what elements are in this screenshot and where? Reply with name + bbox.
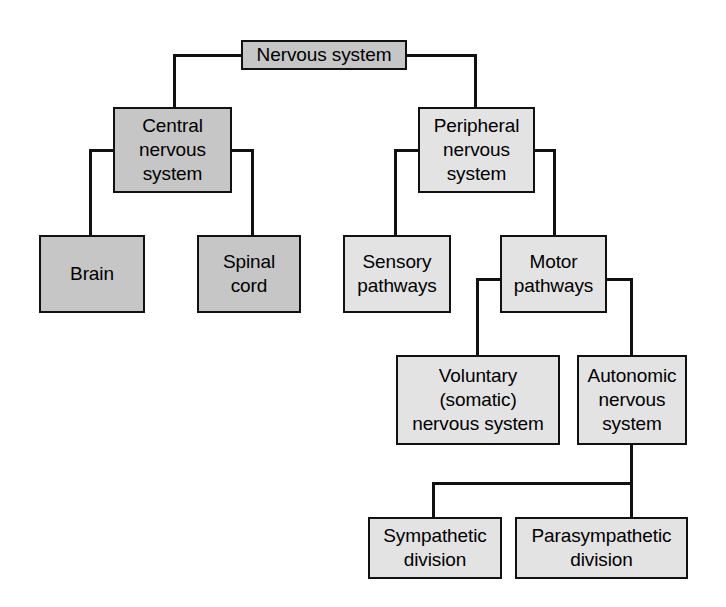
- connector-root-left-drop: [173, 54, 176, 108]
- node-sympathetic-division-line-1: Sympathetic: [383, 524, 486, 548]
- connector-autonomic-bus: [432, 482, 633, 485]
- connector-parasympathetic-drop: [630, 482, 633, 518]
- node-motor-pathways-line-2: pathways: [514, 274, 593, 298]
- node-peripheral-nervous-system-line-1: Peripheral: [434, 114, 520, 138]
- node-spinal-cord-line-2: cord: [231, 274, 268, 298]
- node-parasympathetic-division-line-2: division: [570, 548, 633, 572]
- connector-into-spinal-cord: [251, 214, 254, 236]
- node-spinal-cord[interactable]: Spinal cord: [197, 235, 301, 313]
- connector-root-left-horizontal: [173, 54, 242, 57]
- node-spinal-cord-line-1: Spinal: [223, 250, 275, 274]
- node-peripheral-nervous-system-line-2: nervous: [443, 138, 510, 162]
- node-autonomic-nervous-system-line-2: nervous: [599, 388, 666, 412]
- node-central-nervous-system[interactable]: Central nervous system: [113, 107, 232, 193]
- node-motor-pathways[interactable]: Motor pathways: [500, 235, 607, 313]
- node-motor-pathways-line-1: Motor: [529, 250, 577, 274]
- node-nervous-system-label: Nervous system: [247, 43, 401, 67]
- node-sensory-pathways-line-1: Sensory: [362, 250, 431, 274]
- node-peripheral-nervous-system[interactable]: Peripheral nervous system: [418, 107, 535, 193]
- node-brain-label: Brain: [45, 262, 139, 286]
- node-voluntary-somatic-nervous-system[interactable]: Voluntary (somatic) nervous system: [396, 355, 560, 445]
- connector-into-sensory: [394, 214, 397, 236]
- connector-cns-left-horizontal: [89, 149, 115, 152]
- connector-into-brain: [89, 214, 92, 236]
- connector-root-right-horizontal: [406, 54, 477, 57]
- connector-motor-left-drop: [476, 278, 479, 355]
- node-sympathetic-division-line-2: division: [404, 548, 467, 572]
- node-autonomic-nervous-system-line-1: Autonomic: [588, 364, 677, 388]
- node-sympathetic-division[interactable]: Sympathetic division: [368, 517, 502, 579]
- node-sensory-pathways-line-2: pathways: [357, 274, 436, 298]
- node-voluntary-somatic-line-3: nervous system: [412, 412, 544, 436]
- node-brain[interactable]: Brain: [39, 235, 145, 313]
- connector-motor-right-drop: [630, 278, 633, 355]
- connector-root-right-drop: [474, 54, 477, 108]
- node-central-nervous-system-line-3: system: [143, 162, 203, 186]
- connector-sympathetic-drop: [432, 482, 435, 518]
- node-sensory-pathways[interactable]: Sensory pathways: [343, 235, 451, 313]
- node-nervous-system[interactable]: Nervous system: [241, 40, 407, 70]
- connector-autonomic-drop: [630, 444, 633, 484]
- node-central-nervous-system-line-2: nervous: [139, 138, 206, 162]
- node-autonomic-nervous-system-line-3: system: [602, 412, 662, 436]
- node-central-nervous-system-line-1: Central: [142, 114, 203, 138]
- connector-into-motor: [553, 214, 556, 236]
- node-voluntary-somatic-line-1: Voluntary: [439, 364, 517, 388]
- node-parasympathetic-division-line-1: Parasympathetic: [531, 524, 671, 548]
- node-peripheral-nervous-system-line-3: system: [447, 162, 507, 186]
- node-voluntary-somatic-line-2: (somatic): [439, 388, 516, 412]
- nervous-system-diagram: Nervous system Central nervous system Br…: [0, 0, 726, 607]
- node-autonomic-nervous-system[interactable]: Autonomic nervous system: [577, 355, 687, 445]
- connector-pns-left-horizontal: [394, 149, 420, 152]
- connector-motor-right-horizontal: [605, 278, 633, 281]
- connector-motor-left-horizontal: [476, 278, 502, 281]
- node-parasympathetic-division[interactable]: Parasympathetic division: [515, 517, 688, 579]
